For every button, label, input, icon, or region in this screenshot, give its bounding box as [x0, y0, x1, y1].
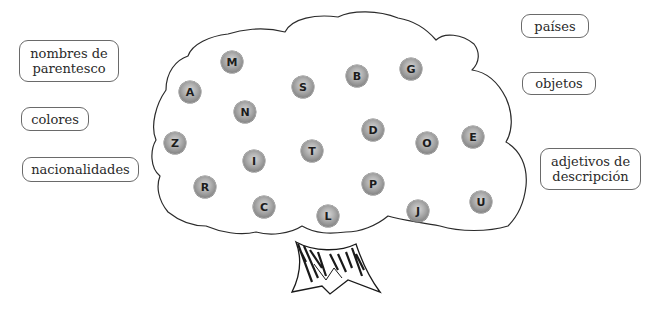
category-label-line-2: descripción — [552, 169, 628, 184]
letter-ball-m[interactable]: M — [221, 51, 243, 73]
letter-ball-n[interactable]: N — [234, 101, 256, 123]
category-label-nombres-de-parentesco[interactable]: nombres de parentesco — [19, 40, 119, 82]
letter-ball-p[interactable]: P — [362, 173, 384, 195]
letter-ball-o[interactable]: O — [416, 132, 438, 154]
category-label-nacionalidades[interactable]: nacionalidades — [22, 157, 139, 182]
letter-ball-a[interactable]: A — [179, 81, 201, 103]
category-label-line-1: nombres de — [30, 46, 108, 61]
letter-ball-e[interactable]: E — [462, 126, 484, 148]
category-label-text: nacionalidades — [31, 162, 130, 177]
category-label-colores[interactable]: colores — [21, 107, 89, 131]
letter-ball-c[interactable]: C — [253, 196, 275, 218]
letter-ball-d[interactable]: D — [362, 119, 384, 141]
letter-ball-b[interactable]: B — [346, 65, 368, 87]
letter-ball-i[interactable]: I — [243, 150, 265, 172]
letter-ball-u[interactable]: U — [470, 191, 492, 213]
letter-ball-j[interactable]: J — [407, 200, 429, 222]
tree-word-diagram: nombres de parentesco colores nacionalid… — [0, 0, 657, 313]
letter-ball-z[interactable]: Z — [164, 132, 186, 154]
category-label-objetos[interactable]: objetos — [522, 72, 596, 95]
category-label-paises[interactable]: países — [521, 14, 589, 38]
category-label-line-2: parentesco — [32, 61, 105, 76]
letter-ball-s[interactable]: S — [292, 76, 314, 98]
category-label-adjetivos-de-descripcion[interactable]: adjetivos de descripción — [540, 148, 641, 190]
letter-ball-r[interactable]: R — [194, 176, 216, 198]
letter-ball-g[interactable]: G — [400, 58, 422, 80]
letter-ball-t[interactable]: T — [301, 140, 323, 162]
category-label-line-1: adjetivos de — [551, 154, 630, 169]
letter-ball-l[interactable]: L — [317, 205, 339, 227]
category-label-text: países — [534, 19, 575, 34]
tree-trunk — [292, 242, 380, 294]
category-label-text: colores — [31, 112, 79, 127]
category-label-text: objetos — [535, 76, 583, 91]
